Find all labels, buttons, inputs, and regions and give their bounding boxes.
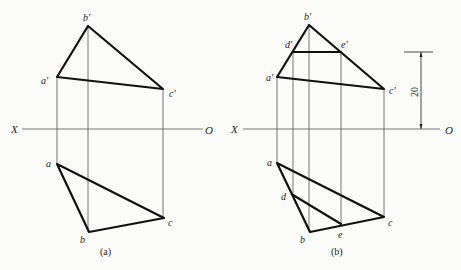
orthographic-projection-figure: b' a' c' X O a b c (a) 20 b' d' e' a' [0,0,461,270]
label-e-prime: e' [341,39,348,50]
figure-b: 20 b' d' e' a' c' X O a d b e c (b) [230,11,453,258]
label-b: b [300,234,305,245]
label-a-prime: a' [41,75,49,86]
label-a: a [46,158,51,169]
label-d-prime: d' [285,39,293,50]
label-e: e [338,229,343,240]
drawing-canvas: b' a' c' X O a b c (a) 20 b' d' e' a' [0,0,461,270]
label-c: c [388,217,393,228]
axis-label-o: O [445,124,453,136]
dimension-arrow-bottom [420,124,423,129]
axis-label-x: X [230,123,239,135]
caption-b: (b) [331,246,343,258]
axis-label-x: X [10,123,19,135]
label-d: d [281,191,287,202]
label-a: a [267,157,272,168]
caption-a: (a) [100,246,111,258]
label-b-prime: b' [304,11,312,22]
dimension-value: 20 [409,87,420,97]
label-c: c [168,217,173,228]
label-b: b [80,234,85,245]
label-c-prime: c' [389,85,396,96]
axis-label-o: O [205,124,213,136]
figure-a: b' a' c' X O a b c (a) [10,12,213,258]
top-view-triangle-a [57,164,164,232]
front-view-triangle-a [57,26,163,89]
label-a-prime: a' [266,72,274,83]
label-c-prime: c' [169,88,176,99]
label-b-prime: b' [83,12,91,23]
dimension-arrow-top [420,52,423,57]
